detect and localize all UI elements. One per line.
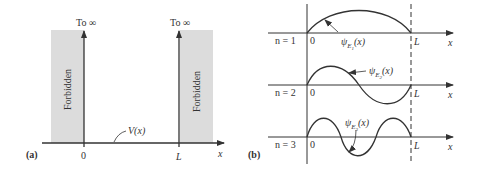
row-n3: n = 3 0 L x ψE3(x) (268, 117, 453, 156)
L-n3: L (413, 140, 420, 151)
zero-n1: 0 (310, 35, 315, 46)
right-forbidden-label: Forbidden (191, 71, 202, 112)
panel-a: To ∞ To ∞ Forbidden Forbidden V(x) 0 L x… (26, 17, 224, 162)
psi3-label: ψE3(x) (345, 117, 370, 132)
row-n1: n = 1 0 L x ψE1(x) (268, 11, 453, 52)
panel-b-label: (b) (248, 149, 260, 161)
x-n3: x (447, 141, 453, 152)
L-n2: L (413, 88, 420, 99)
wavefunction-n1 (307, 11, 411, 34)
n3-label: n = 3 (275, 139, 296, 150)
x-n1: x (447, 37, 453, 48)
zero-n3: 0 (310, 139, 315, 150)
right-wall-infinity-label: To ∞ (170, 17, 190, 28)
psi3-pointer (349, 130, 356, 152)
row-n2: n = 2 0 L x ψE2(x) (268, 65, 453, 104)
panel-a-label: (a) (26, 149, 38, 161)
L-n1: L (413, 36, 420, 47)
n1-label: n = 1 (275, 35, 296, 46)
psi1-pointer (325, 20, 338, 32)
zero-n2: 0 (310, 87, 315, 98)
left-wall-infinity-label: To ∞ (76, 17, 96, 28)
potential-label: V(x) (128, 125, 146, 137)
tick-L-a: L (175, 151, 182, 162)
n2-label: n = 2 (275, 87, 296, 98)
x-axis-label-a: x (217, 148, 223, 159)
tick-zero-a: 0 (81, 150, 86, 161)
potential-pointer (114, 131, 126, 142)
left-forbidden-label: Forbidden (62, 69, 73, 110)
psi2-pointer (349, 71, 366, 73)
x-n2: x (447, 89, 453, 100)
psi1-label: ψE1(x) (341, 36, 366, 51)
panel-b: n = 1 0 L x ψE1(x) n = 2 0 L x ψE2(x) n … (248, 4, 453, 164)
infinite-square-well-figure: To ∞ To ∞ Forbidden Forbidden V(x) 0 L x… (0, 0, 479, 178)
psi2-label: ψE2(x) (369, 65, 394, 80)
